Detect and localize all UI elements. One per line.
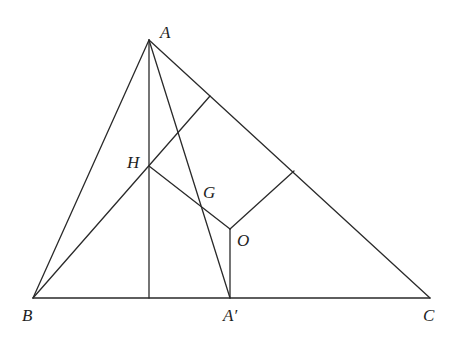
segments-group	[33, 40, 430, 298]
perp-bisector-ac	[230, 171, 294, 229]
median-from-a	[149, 40, 230, 298]
label-o: O	[237, 232, 249, 249]
euler-line-ho	[149, 166, 230, 229]
label-a-prime: A′	[223, 307, 237, 324]
side-ac	[149, 40, 430, 298]
label-a: A	[160, 24, 170, 41]
label-h: H	[127, 154, 139, 171]
label-c: C	[423, 307, 434, 324]
altitude-from-b	[33, 96, 210, 298]
label-b: B	[22, 307, 32, 324]
label-g: G	[203, 184, 215, 201]
geometry-diagram	[0, 0, 463, 347]
